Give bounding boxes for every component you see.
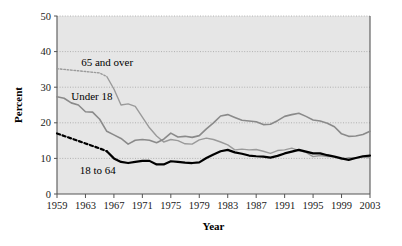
x-axis-title: Year: [203, 220, 225, 232]
x-tick-label-2003: 2003: [360, 200, 381, 211]
y-tick-label-10: 10: [41, 153, 52, 164]
y-tick-label-20: 20: [41, 117, 52, 128]
y-tick-label-0: 0: [46, 189, 51, 200]
x-tick-label-1979: 1979: [189, 200, 210, 211]
y-tick-label-30: 30: [41, 82, 52, 93]
y-tick-label-50: 50: [41, 11, 52, 22]
series-label-18-to-64: 18 to 64: [80, 164, 117, 176]
series-label-under-18: Under 18: [71, 90, 113, 102]
y-tick-label-40: 40: [41, 46, 52, 57]
x-tick-label-1975: 1975: [160, 200, 181, 211]
x-tick-label-1999: 1999: [331, 200, 352, 211]
x-tick-label-1971: 1971: [132, 200, 153, 211]
x-tick-label-1963: 1963: [75, 200, 96, 211]
poverty-rate-line-chart: 01020304050 1959196319671971197519791983…: [0, 0, 402, 246]
y-axis-title: Percent: [12, 87, 24, 123]
x-tick-label-1983: 1983: [217, 200, 238, 211]
x-tick-label-1967: 1967: [103, 200, 124, 211]
chart-canvas: 01020304050 1959196319671971197519791983…: [0, 0, 402, 246]
x-tick-label-1959: 1959: [47, 200, 68, 211]
x-tick-label-1991: 1991: [274, 200, 295, 211]
x-tick-label-1987: 1987: [246, 200, 267, 211]
series-label-65-and-over: 65 and over: [81, 56, 133, 68]
x-tick-label-1995: 1995: [303, 200, 324, 211]
